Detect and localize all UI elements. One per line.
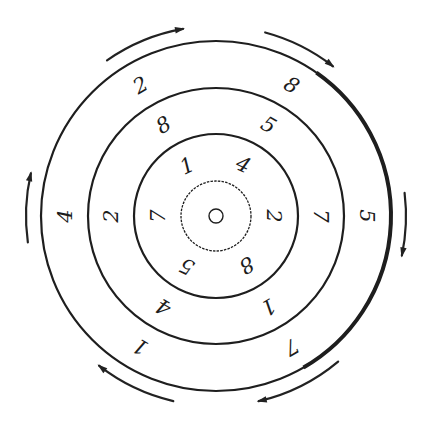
band-middle-label: 2: [99, 209, 123, 223]
band-outer-label: 2: [128, 71, 152, 99]
band-inner-label: 2: [262, 208, 286, 222]
center-dot: [209, 209, 223, 223]
band-outer-label: 5: [355, 209, 379, 222]
arrow-right-icon: [400, 193, 406, 258]
band-outer-label: 4: [53, 209, 77, 223]
band-outer-label: 1: [129, 333, 153, 360]
band-middle-label: 7: [309, 209, 333, 223]
number-labels-group: 142857857142285714: [53, 71, 379, 360]
ring-1: [181, 181, 251, 251]
band-middle-label: 5: [257, 111, 281, 138]
rings-group: [41, 41, 391, 391]
band-inner-label: 8: [235, 251, 259, 278]
band-middle-label: 8: [152, 111, 176, 138]
ring-3: [88, 88, 344, 344]
band-inner-label: 5: [176, 253, 198, 280]
band-inner-label: 1: [176, 152, 198, 179]
band-middle-label: 1: [257, 293, 281, 320]
rotation-arrows-group: [26, 27, 407, 402]
band-outer-label: 8: [280, 71, 304, 98]
concentric-rings-diagram: 142857857142285714: [0, 0, 433, 435]
arrow-left-icon: [26, 171, 32, 242]
band-middle-label: 4: [152, 293, 176, 321]
band-outer-label: 7: [279, 333, 303, 361]
band-inner-label: 4: [231, 151, 254, 179]
band-inner-label: 7: [146, 209, 170, 223]
